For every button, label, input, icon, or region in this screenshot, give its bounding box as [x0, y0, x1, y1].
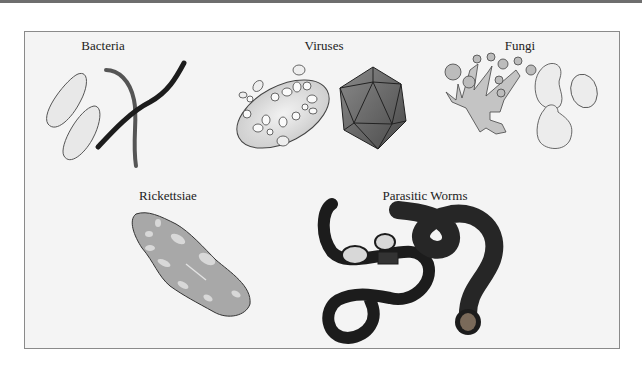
bacteria-illustration [47, 63, 184, 166]
illustrations [0, 0, 642, 367]
rickettsiae-illustration [132, 213, 250, 316]
fungi-illustration [445, 53, 601, 149]
parasitic-worms-illustration [324, 204, 495, 338]
viruses-illustration [226, 65, 406, 162]
